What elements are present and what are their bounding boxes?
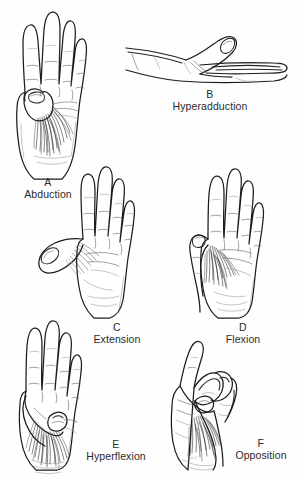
panel-b-illustration xyxy=(124,26,296,88)
panel-b-caption: B Hyperadduction xyxy=(124,88,296,113)
panel-f-letter: F xyxy=(222,437,300,449)
panel-e-letter: E xyxy=(66,438,166,450)
panel-b-name: Hyperadduction xyxy=(124,100,296,112)
artist-signature: ııı.c xyxy=(189,455,198,461)
panel-f-name: Opposition xyxy=(222,449,300,461)
panel-e-caption: E Hyperflexion xyxy=(66,438,166,463)
panel-c-illustration xyxy=(36,150,140,322)
panel-d-illustration xyxy=(178,150,282,322)
figure-thumb-movements: A Abduction xyxy=(0,0,302,478)
panel-b-letter: B xyxy=(124,88,296,100)
panel-f-caption: F Opposition xyxy=(222,437,300,462)
panel-e-name: Hyperflexion xyxy=(66,450,166,462)
